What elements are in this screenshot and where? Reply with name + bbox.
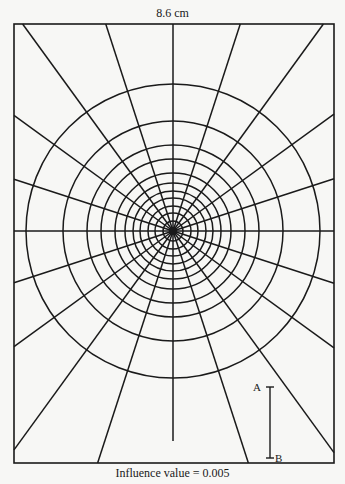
radial-line — [173, 231, 248, 463]
radial-line — [173, 114, 334, 231]
scale-label-b: B — [275, 452, 282, 464]
radial-lines — [14, 24, 334, 463]
radial-line — [173, 231, 334, 348]
scale-label-a: A — [253, 381, 261, 393]
influence-value-caption: Influence value = 0.005 — [0, 466, 345, 481]
radial-line — [173, 24, 323, 231]
radial-line — [173, 231, 334, 453]
center-point — [169, 227, 177, 235]
chart-frame — [14, 24, 334, 463]
radial-line — [23, 24, 173, 231]
scale-bar-ab: A B — [253, 381, 282, 464]
radial-line — [98, 231, 173, 463]
influence-chart: A B — [0, 0, 345, 484]
